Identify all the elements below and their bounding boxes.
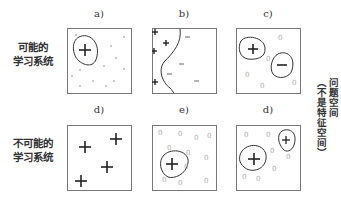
row-label-line: 不可能的	[8, 136, 58, 150]
svg-text:0: 0	[244, 131, 248, 139]
svg-text:0: 0	[204, 177, 208, 185]
svg-text:0: 0	[245, 71, 249, 79]
panel-d	[67, 125, 132, 191]
panel-label-c: c)	[236, 8, 300, 19]
svg-text:0: 0	[186, 149, 190, 157]
svg-text:0: 0	[184, 163, 188, 171]
row-label-line: 学习系统	[8, 54, 58, 68]
svg-text:0: 0	[266, 55, 270, 63]
panel-label-d2: d)	[236, 104, 300, 115]
svg-text:0: 0	[242, 173, 246, 181]
row-label-possible: 可能的 学习系统	[8, 40, 58, 68]
svg-text:0: 0	[270, 147, 274, 155]
row-label-impossible: 不可能的 学习系统	[8, 136, 58, 164]
svg-text:0: 0	[178, 130, 182, 138]
svg-text:0: 0	[292, 79, 296, 87]
svg-text:0: 0	[256, 175, 260, 183]
row-label-line: 可能的	[8, 40, 58, 54]
svg-text:0: 0	[204, 154, 208, 162]
svg-text:0: 0	[278, 34, 282, 42]
panel-d2: 0000 000	[236, 125, 301, 191]
svg-text:0: 0	[207, 132, 211, 140]
panel-label-d: d)	[67, 104, 131, 115]
svg-text:0: 0	[178, 179, 182, 187]
panel-e: 0000 0000 000	[152, 125, 217, 191]
svg-text:0: 0	[162, 176, 166, 184]
side-label-line1: 问题空间	[328, 78, 339, 118]
panel-label-e: e)	[152, 104, 216, 115]
svg-text:0: 0	[167, 144, 171, 152]
row-label-line: 学习系统	[8, 150, 58, 164]
svg-text:0: 0	[194, 134, 198, 142]
panel-c: 00000	[236, 28, 301, 94]
side-label: 问题空间 （不是特征空间）	[313, 78, 339, 158]
panel-label-a: a)	[67, 8, 131, 19]
panel-b	[152, 28, 217, 94]
svg-text:0: 0	[158, 129, 162, 137]
panel-label-b: b)	[152, 8, 216, 19]
svg-text:0: 0	[266, 131, 270, 139]
side-label-line2: （不是特征空间）	[316, 78, 327, 158]
svg-text:0: 0	[272, 165, 276, 173]
panel-a	[67, 28, 132, 94]
svg-text:0: 0	[260, 82, 264, 90]
svg-text:0: 0	[286, 153, 290, 161]
